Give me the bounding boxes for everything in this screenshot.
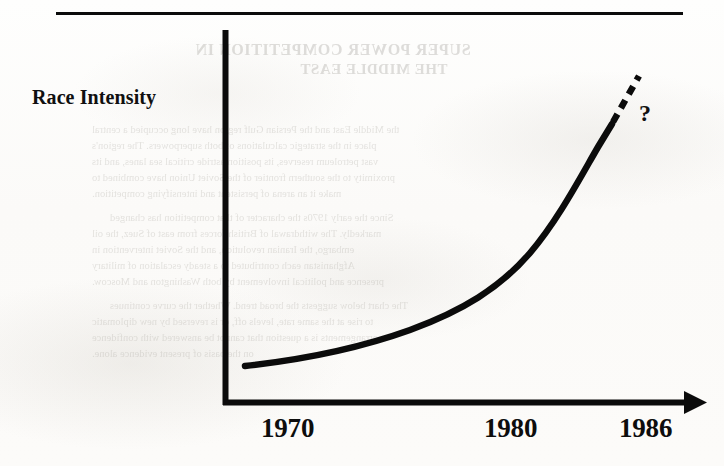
forecast-question-mark-annotation: ? <box>639 100 651 127</box>
document-page: SUPER POWER COMPETITION IN THE MIDDLE EA… <box>0 0 724 466</box>
race-intensity-curve-dashed <box>613 76 639 122</box>
chart-plot-area <box>0 0 724 466</box>
x-axis-tick-label-1970: 1970 <box>261 413 314 444</box>
race-intensity-curve-solid <box>245 124 612 366</box>
y-axis-title: Race Intensity <box>32 86 156 109</box>
chart-figure: Race Intensity 1970 1980 1986 ? <box>0 0 724 466</box>
x-axis-arrowhead <box>684 391 707 414</box>
x-axis-tick-label-1980: 1980 <box>484 413 537 444</box>
x-axis-tick-label-1986: 1986 <box>619 413 672 444</box>
